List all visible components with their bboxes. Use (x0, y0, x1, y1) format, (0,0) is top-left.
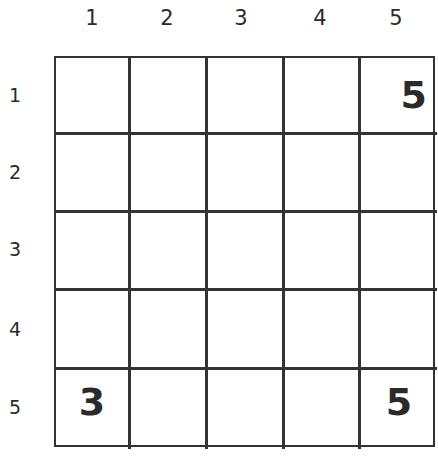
cell-r1-c4[interactable] (285, 58, 361, 135)
cell-r1-c2[interactable] (131, 58, 208, 135)
cell-r1-c3[interactable] (208, 58, 285, 135)
row-label-2: 2 (6, 161, 24, 183)
cell-r4-c3[interactable] (208, 291, 285, 370)
cell-r2-c1[interactable] (56, 135, 131, 213)
column-label-2: 2 (157, 6, 177, 30)
row-label-1: 1 (6, 84, 24, 106)
cell-r3-c4[interactable] (285, 213, 361, 291)
cell-r5-c1[interactable]: 3 (56, 370, 131, 449)
cell-r4-c4[interactable] (285, 291, 361, 370)
row-label-4: 4 (6, 318, 24, 340)
cell-r2-c4[interactable] (285, 135, 361, 213)
cell-r4-c2[interactable] (131, 291, 208, 370)
cell-r3-c5[interactable] (361, 213, 437, 291)
cell-r3-c3[interactable] (208, 213, 285, 291)
cell-r5-c3[interactable] (208, 370, 285, 449)
cell-r5-c2[interactable] (131, 370, 208, 449)
cell-r2-c2[interactable] (131, 135, 208, 213)
cell-r4-c5[interactable] (361, 291, 437, 370)
cell-r3-c1[interactable] (56, 213, 131, 291)
cell-r1-c1[interactable] (56, 58, 131, 135)
cell-r4-c1[interactable] (56, 291, 131, 370)
cell-r3-c2[interactable] (131, 213, 208, 291)
row-label-5: 5 (6, 396, 24, 418)
cell-r1-c5[interactable]: 5 (361, 58, 437, 135)
row-label-3: 3 (6, 238, 24, 260)
column-label-5: 5 (386, 6, 406, 30)
column-label-4: 4 (310, 6, 330, 30)
cell-r5-c4[interactable] (285, 370, 361, 449)
column-label-3: 3 (231, 6, 251, 30)
cell-r2-c3[interactable] (208, 135, 285, 213)
column-label-1: 1 (82, 6, 102, 30)
puzzle-grid: 5 3 5 (54, 56, 435, 447)
cell-r5-c5[interactable]: 5 (361, 370, 437, 449)
cell-r2-c5[interactable] (361, 135, 437, 213)
